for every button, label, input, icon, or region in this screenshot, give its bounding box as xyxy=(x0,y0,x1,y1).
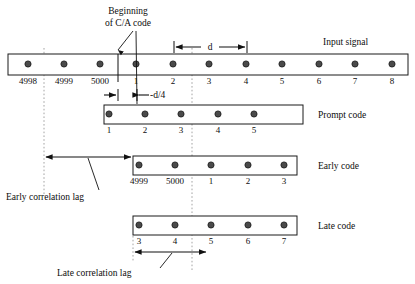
chip-dot xyxy=(352,61,358,67)
prompt-code-bar xyxy=(104,105,303,124)
tick-label: 3 xyxy=(137,236,142,246)
chip-dot xyxy=(178,111,184,117)
late-correlation-lag-leader xyxy=(160,253,172,268)
tick-label: 3 xyxy=(207,76,212,86)
diagram-canvas: 4998 4999 5000 1 2 3 4 5 6 7 8 Input sig… xyxy=(0,0,415,284)
tick-label: 4999 xyxy=(130,176,149,186)
late-correlation-lag-annotation: Late correlation lag xyxy=(57,236,206,278)
tick-label: 7 xyxy=(282,236,287,246)
late-code-label: Late code xyxy=(318,221,355,231)
chip-dot xyxy=(206,61,212,67)
chip-dot xyxy=(243,61,249,67)
early-code-bar xyxy=(133,156,297,175)
code-tracking-diagram: 4998 4999 5000 1 2 3 4 5 6 7 8 Input sig… xyxy=(0,0,415,284)
chip-dot xyxy=(25,61,31,67)
chip-dot xyxy=(97,61,103,67)
tick-label: 1 xyxy=(209,176,214,186)
chip-dot xyxy=(316,61,322,67)
beginning-of-ca-code-label-line1: Beginning xyxy=(108,6,148,16)
tick-label: 2 xyxy=(143,125,148,135)
chip-dot xyxy=(245,162,251,168)
tick-label: 4998 xyxy=(19,76,38,86)
tick-label: 3 xyxy=(282,176,287,186)
tick-label: 4999 xyxy=(55,76,74,86)
track-prompt-code: 1 2 3 4 5 Prompt code xyxy=(104,105,366,135)
tick-label: 4 xyxy=(244,76,249,86)
tick-label: 2 xyxy=(246,176,251,186)
dimension-d-over-4-label: -d/4 xyxy=(150,90,166,100)
chip-dot xyxy=(208,222,214,228)
prompt-code-label: Prompt code xyxy=(318,110,366,120)
tick-label: 4 xyxy=(216,125,221,135)
dimension-d: d xyxy=(174,39,247,53)
early-correlation-lag-leader xyxy=(88,158,99,190)
tick-label: 6 xyxy=(317,76,322,86)
tick-label: 3 xyxy=(179,125,184,135)
chip-dot xyxy=(281,162,287,168)
input-signal-label: Input signal xyxy=(323,37,368,47)
late-code-tick-labels: 3 4 5 6 7 xyxy=(137,236,287,246)
chip-dot xyxy=(245,222,251,228)
tick-label: 5000 xyxy=(91,76,110,86)
early-code-tick-labels: 4999 5000 1 2 3 xyxy=(130,176,287,186)
late-code-bar xyxy=(133,216,297,235)
chip-dot xyxy=(136,222,142,228)
chip-dot xyxy=(172,162,178,168)
chip-dot xyxy=(279,61,285,67)
tick-label: 5 xyxy=(252,125,257,135)
tick-label: 6 xyxy=(246,236,251,246)
dimension-d-over-4: -d/4 xyxy=(104,89,166,101)
chip-dot xyxy=(281,222,287,228)
prompt-code-tick-labels: 1 2 3 4 5 xyxy=(107,125,257,135)
tick-label: 2 xyxy=(171,76,176,86)
chip-dot xyxy=(389,61,395,67)
early-correlation-lag-label: Early correlation lag xyxy=(6,192,84,202)
beginning-of-ca-code-label-line2: of C/A code xyxy=(105,18,151,28)
tick-label: 1 xyxy=(107,125,112,135)
chip-dot xyxy=(142,111,148,117)
tick-label: 5 xyxy=(209,236,214,246)
chip-dot xyxy=(208,162,214,168)
tick-label: 1 xyxy=(134,76,139,86)
dimension-d-label: d xyxy=(208,42,213,52)
chip-dot xyxy=(172,222,178,228)
track-early-code: 4999 5000 1 2 3 Early code xyxy=(130,156,359,186)
tick-label: 4 xyxy=(173,236,178,246)
tick-label: 8 xyxy=(390,76,395,86)
chip-dot xyxy=(136,162,142,168)
tick-label: 5 xyxy=(280,76,285,86)
tick-label: 5000 xyxy=(166,176,185,186)
track-late-code: 3 4 5 6 7 Late code xyxy=(133,216,355,246)
input-signal-tick-labels: 4998 4999 5000 1 2 3 4 5 6 7 8 xyxy=(19,76,395,86)
early-correlation-lag-annotation: Early correlation lag xyxy=(6,157,131,202)
chip-dot xyxy=(251,111,257,117)
chip-dot xyxy=(61,61,67,67)
late-correlation-lag-label: Late correlation lag xyxy=(57,268,132,278)
beginning-callout-leader-short xyxy=(118,31,133,50)
chip-dot xyxy=(170,61,176,67)
chip-dot xyxy=(215,111,221,117)
chip-dot xyxy=(106,111,112,117)
tick-label: 7 xyxy=(353,76,358,86)
early-code-label: Early code xyxy=(318,161,359,171)
